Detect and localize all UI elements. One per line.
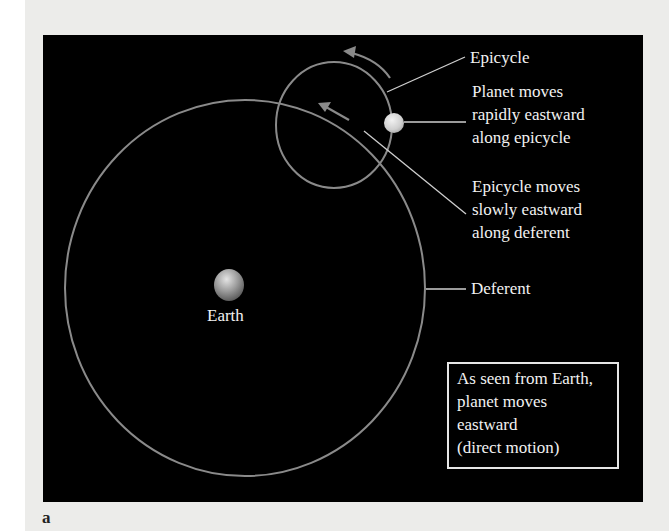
note-line-2: planet moves: [457, 390, 617, 413]
deferent-orbit: [65, 100, 425, 476]
planet-motion-label-line-1: Planet moves: [472, 80, 563, 103]
planet-sphere-icon: [384, 113, 404, 133]
figure-letter: a: [42, 508, 51, 528]
note-line-1: As seen from Earth,: [457, 367, 617, 390]
epicycle-motion-leader-line: [364, 131, 466, 214]
earth-label: Earth: [207, 304, 244, 327]
earth-sphere-icon: [214, 269, 244, 301]
note-line-3: eastward: [457, 413, 617, 436]
planet-motion-label-line-2: rapidly eastward: [472, 103, 585, 126]
planet-motion-label-line-3: along epicycle: [472, 126, 571, 149]
epicycle-motion-label-line-3: along deferent: [472, 221, 570, 244]
epicycle-label: Epicycle: [470, 46, 529, 69]
note-line-4: (direct motion): [457, 436, 617, 459]
deferent-label: Deferent: [471, 277, 530, 300]
epicycle-motion-label-line-2: slowly eastward: [472, 198, 582, 221]
direct-motion-note-box: As seen from Earth, planet moves eastwar…: [447, 362, 619, 469]
epicycle-leader-line: [387, 57, 465, 92]
epicycle-motion-label-line-1: Epicycle moves: [472, 175, 580, 198]
